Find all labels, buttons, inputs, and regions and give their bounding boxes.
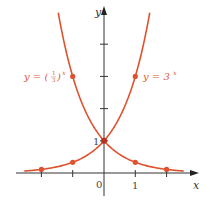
label-one-third-pow-x: y = ( 1 3 ) x <box>23 69 66 83</box>
curve-3-pow-x <box>24 13 150 171</box>
svg-text:x: x <box>173 69 177 77</box>
data-point <box>101 138 107 144</box>
origin-label: 0 <box>96 179 102 190</box>
data-point <box>133 74 138 79</box>
data-point <box>133 160 138 165</box>
svg-text:y = 3: y = 3 <box>142 71 170 82</box>
y-axis-label: y <box>94 6 102 19</box>
data-point <box>164 167 169 172</box>
x-axis-label: x <box>193 179 200 192</box>
x-axis-arrow-icon <box>190 170 199 176</box>
data-point <box>70 160 75 165</box>
data-point <box>70 74 75 79</box>
curve-one-third-pow-x <box>58 13 184 171</box>
svg-text:): ) <box>56 71 61 82</box>
svg-text:3: 3 <box>52 77 56 83</box>
label-3-pow-x: y = 3 x <box>142 69 177 82</box>
axes <box>16 6 199 196</box>
data-point <box>39 167 44 172</box>
y-axis-arrow-icon <box>101 6 107 15</box>
svg-text:1: 1 <box>52 70 56 76</box>
exponential-functions-chart: y x 0 1 1 y = ( 1 3 ) x y = 3 x <box>0 0 210 209</box>
y-tick-label-1: 1 <box>93 136 99 147</box>
x-tick-label-1: 1 <box>132 180 138 191</box>
svg-text:x: x <box>62 69 66 77</box>
svg-text:y = (: y = ( <box>23 71 49 82</box>
